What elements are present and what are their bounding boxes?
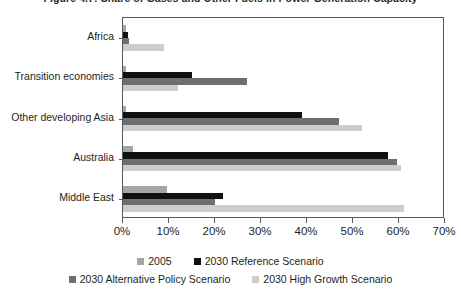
x-axis-tick: [260, 218, 261, 223]
x-axis-tick: [306, 218, 307, 223]
legend-item[interactable]: 2005: [137, 255, 171, 267]
bar-group: [123, 18, 443, 58]
y-axis-label-africa: Africa: [87, 30, 114, 42]
legend-row-2: 2030 Alternative Policy Scenario2030 Hig…: [0, 270, 461, 288]
figure-title: Figure 4.7: Share of Gases and Other Fue…: [0, 0, 461, 4]
y-axis-label-other-developing-asia: Other developing Asia: [11, 111, 114, 123]
bar-group: [123, 98, 443, 138]
y-axis-label-australia: Australia: [73, 151, 114, 163]
chart-plot-area: [122, 17, 444, 218]
legend-swatch-icon: [194, 258, 201, 265]
y-axis-tick: [119, 38, 123, 39]
bar-group: [123, 58, 443, 98]
legend-label: 2005: [148, 255, 171, 267]
x-axis-tick-labels: 0%10%20%30%40%50%60%70%: [0, 224, 461, 240]
legend-swatch-icon: [252, 276, 259, 283]
chart-legend: 20052030 Reference Scenario 2030 Alterna…: [0, 252, 461, 288]
y-axis-label-transition-economies: Transition economies: [15, 70, 114, 82]
legend-swatch-icon: [137, 258, 144, 265]
y-axis-tick: [119, 159, 123, 160]
bar: [123, 44, 164, 50]
bar: [123, 165, 401, 171]
x-axis-tick: [352, 218, 353, 223]
legend-swatch-icon: [69, 276, 76, 283]
x-axis-tick-label: 20%: [202, 224, 225, 238]
bar: [123, 125, 362, 131]
legend-row-1: 20052030 Reference Scenario: [0, 252, 461, 270]
x-axis-tick-label: 40%: [294, 224, 317, 238]
y-axis-label-middle-east: Middle East: [59, 191, 114, 203]
bar-group: [123, 139, 443, 179]
y-axis-tick: [119, 199, 123, 200]
legend-item[interactable]: 2030 Reference Scenario: [194, 255, 324, 267]
x-axis-tick-label: 30%: [248, 224, 271, 238]
bar: [123, 205, 404, 211]
legend-label: 2030 Alternative Policy Scenario: [80, 273, 231, 285]
x-axis-tick: [122, 218, 123, 223]
x-axis-tick-label: 60%: [386, 224, 409, 238]
x-axis-tick-label: 0%: [114, 224, 131, 238]
bar-group: [123, 179, 443, 219]
y-axis-tick: [119, 119, 123, 120]
legend-label: 2030 Reference Scenario: [205, 255, 324, 267]
x-axis-tick-label: 70%: [432, 224, 455, 238]
y-axis-tick: [119, 78, 123, 79]
x-axis-tick: [214, 218, 215, 223]
legend-item[interactable]: 2030 High Growth Scenario: [252, 273, 392, 285]
x-axis-tick-label: 50%: [340, 224, 363, 238]
legend-item[interactable]: 2030 Alternative Policy Scenario: [69, 273, 231, 285]
x-axis-tick: [398, 218, 399, 223]
y-axis-labels: AfricaTransition economiesOther developi…: [0, 17, 118, 218]
x-axis-tick: [168, 218, 169, 223]
x-axis-tick-label: 10%: [156, 224, 179, 238]
bar: [123, 85, 178, 91]
x-axis-tick: [444, 218, 445, 223]
legend-label: 2030 High Growth Scenario: [263, 273, 392, 285]
